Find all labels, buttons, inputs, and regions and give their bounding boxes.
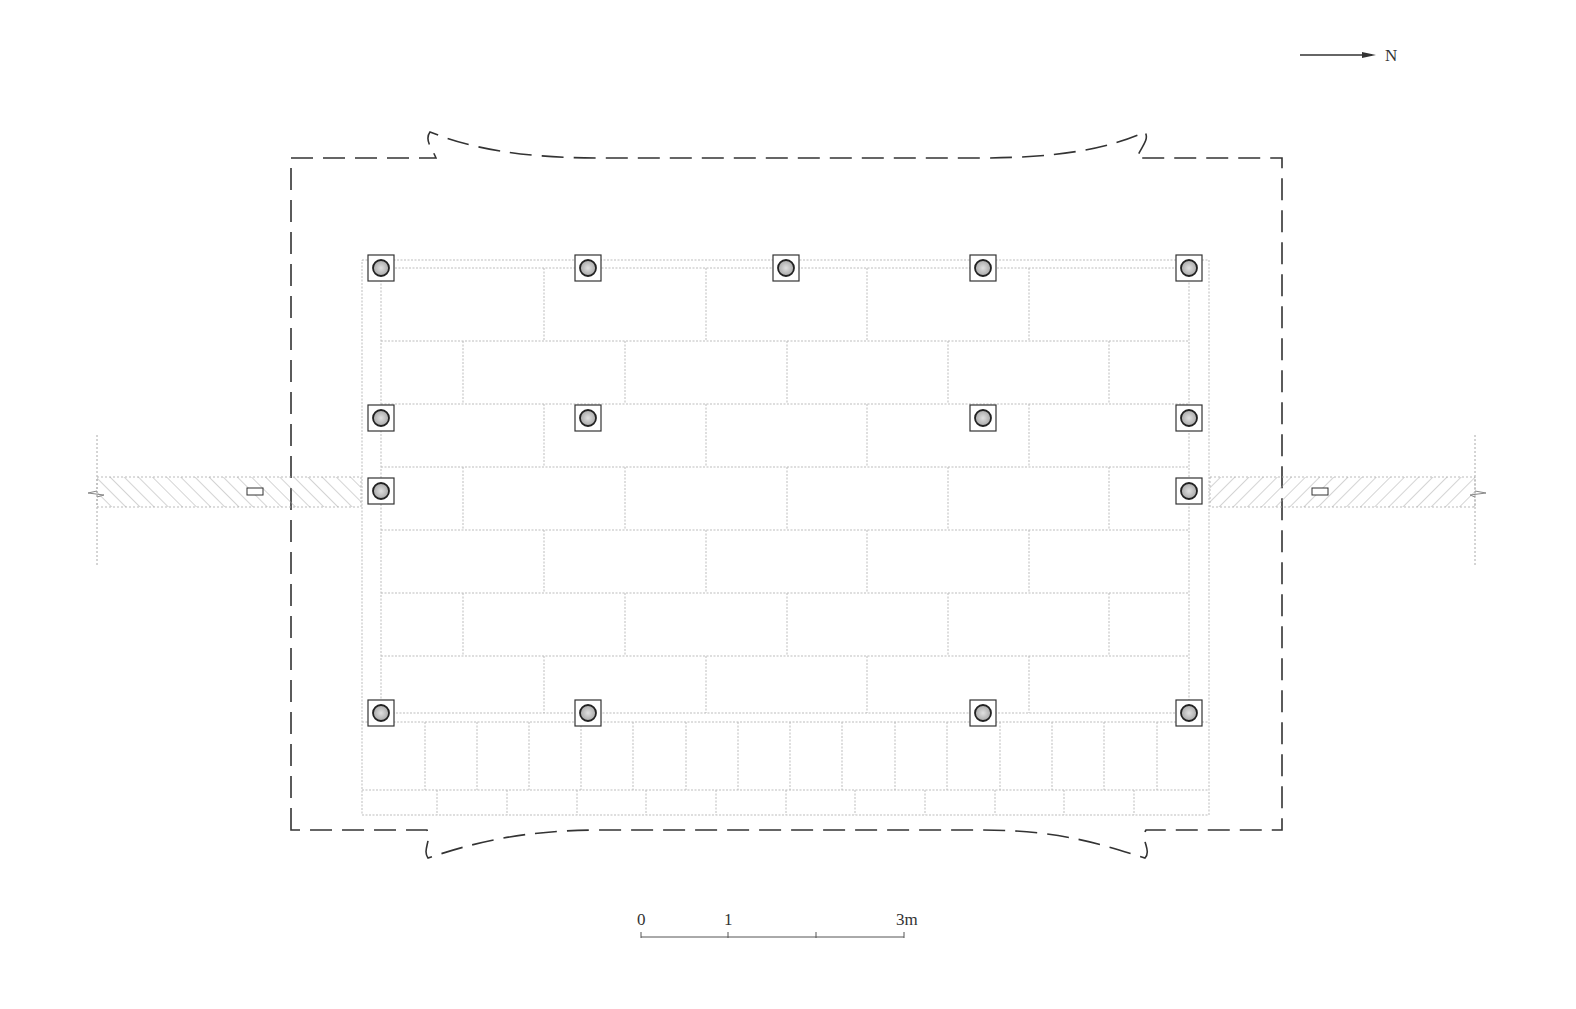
scale-label-0: 0: [637, 910, 646, 929]
north-arrow: N: [1300, 46, 1397, 65]
column-icon: [1176, 700, 1202, 726]
column-icon: [368, 478, 394, 504]
column-icon: [970, 255, 996, 281]
column-icon: [368, 405, 394, 431]
roof-outline: [291, 132, 1282, 858]
column-icon: [575, 255, 601, 281]
column-icon: [575, 700, 601, 726]
scale-bar: 0 1 3m: [637, 910, 918, 938]
floor-grid: [362, 260, 1209, 815]
column-icon: [368, 700, 394, 726]
column-icon: [1176, 255, 1202, 281]
column-icon: [1176, 478, 1202, 504]
column-icon: [1176, 405, 1202, 431]
east-wall: [1210, 435, 1486, 565]
west-wall: [88, 435, 361, 565]
column-icon: [773, 255, 799, 281]
scale-label-1: 1: [724, 910, 733, 929]
columns: [368, 255, 1202, 726]
floor-plan: N: [0, 0, 1576, 1009]
column-icon: [970, 405, 996, 431]
column-icon: [368, 255, 394, 281]
column-icon: [575, 405, 601, 431]
column-icon: [970, 700, 996, 726]
north-label: N: [1385, 46, 1397, 65]
scale-label-3m: 3m: [896, 910, 918, 929]
